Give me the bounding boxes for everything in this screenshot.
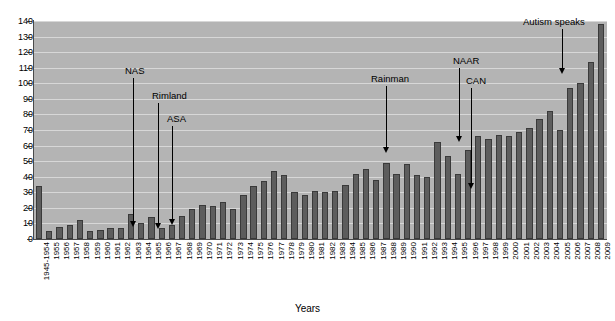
y-axis-tick-label: 100 xyxy=(7,79,33,88)
bar xyxy=(373,180,379,239)
x-axis-tick-label: 1970 xyxy=(206,242,214,260)
bar xyxy=(445,156,451,239)
x-axis-tick-label: 1958 xyxy=(83,242,91,260)
x-axis-tick-label: 1982 xyxy=(329,242,337,260)
bar xyxy=(199,205,205,239)
annotation-arrow-head xyxy=(468,183,474,189)
x-axis-tick-label: 1977 xyxy=(278,242,286,260)
annotation-label: ASA xyxy=(167,114,186,124)
bar xyxy=(475,136,481,239)
x-axis-tick-label: 1993 xyxy=(441,242,449,260)
y-axis-tick-label: 10 xyxy=(7,219,33,228)
x-axis-tick-label: 1975 xyxy=(257,242,265,260)
bar xyxy=(455,174,461,239)
x-axis-tick-label: 1955 xyxy=(53,242,61,260)
bar xyxy=(189,209,195,239)
x-axis-tick-label: 1995 xyxy=(461,242,469,260)
x-axis-tick-label: 1962 xyxy=(124,242,132,260)
bar xyxy=(322,192,328,239)
y-axis-tick-label: 140 xyxy=(7,17,33,26)
bar xyxy=(577,83,583,239)
annotation-arrow-line xyxy=(386,86,387,148)
x-axis-tick-label: 1956 xyxy=(63,242,71,260)
annotation-arrow-line xyxy=(471,88,472,184)
annotation-arrow-head xyxy=(456,136,462,142)
x-axis-tick-label: 1964 xyxy=(145,242,153,260)
bar xyxy=(567,88,573,239)
bar xyxy=(148,217,154,239)
x-axis-tick-label: 1967 xyxy=(175,242,183,260)
x-axis-tick-label: 1963 xyxy=(135,242,143,260)
x-axis-tick-label: 2002 xyxy=(533,242,541,260)
x-axis-tick-label: 1980 xyxy=(308,242,316,260)
x-axis-tick-label: 1945-1954 xyxy=(43,242,51,280)
bar xyxy=(77,220,83,239)
bar xyxy=(536,119,542,239)
y-axis-tick-label: 80 xyxy=(7,110,33,119)
bar xyxy=(46,231,52,239)
x-axis-tick-label: 1986 xyxy=(369,242,377,260)
y-axis-tick-label: 130 xyxy=(7,33,33,42)
x-axis-tick-label: 2008 xyxy=(594,242,602,260)
y-axis-tick-label: 120 xyxy=(7,48,33,57)
bar xyxy=(159,228,165,239)
annotation-arrow-head xyxy=(383,147,389,153)
x-axis-tick-label: 1976 xyxy=(267,242,275,260)
x-axis-tick-label: 1983 xyxy=(339,242,347,260)
bar xyxy=(261,181,267,239)
annotation-label: NAAR xyxy=(453,56,479,66)
x-axis-tick-label: 2009 xyxy=(604,242,612,260)
bar xyxy=(302,195,308,239)
x-axis-tick-label: 1987 xyxy=(380,242,388,260)
bar xyxy=(118,228,124,239)
x-axis-title: Years xyxy=(0,303,615,314)
x-axis-tick-label: 1978 xyxy=(288,242,296,260)
y-axis-tick-label: 0 xyxy=(7,235,33,244)
x-axis-tick-label: 1972 xyxy=(226,242,234,260)
bar-series xyxy=(34,21,606,239)
bar xyxy=(138,223,144,239)
x-axis-tick-label: 1957 xyxy=(73,242,81,260)
x-axis-tick-label: 2001 xyxy=(523,242,531,260)
bar xyxy=(363,169,369,239)
annotation-arrow-line xyxy=(133,78,134,222)
x-axis-tick-label: 1961 xyxy=(114,242,122,260)
bar xyxy=(516,132,522,239)
annotation-label: NAS xyxy=(125,66,145,76)
bar xyxy=(393,174,399,239)
bar xyxy=(87,231,93,239)
bar xyxy=(434,142,440,239)
bar xyxy=(291,192,297,239)
bar xyxy=(404,164,410,239)
bar xyxy=(240,195,246,239)
x-axis-tick-label: 1991 xyxy=(421,242,429,260)
bar xyxy=(526,128,532,239)
bar xyxy=(342,185,348,240)
y-axis-tick-label: 60 xyxy=(7,142,33,151)
y-axis: 0102030405060708090100110120130140 xyxy=(0,0,33,321)
bar xyxy=(496,135,502,239)
x-axis-tick-label: 1960 xyxy=(104,242,112,260)
x-axis-tick-label: 2006 xyxy=(574,242,582,260)
x-axis-tick-label: 1965 xyxy=(155,242,163,260)
bar xyxy=(220,202,226,239)
bar xyxy=(107,228,113,239)
x-axis-tick-label: 2004 xyxy=(553,242,561,260)
annotation-arrow-head xyxy=(155,223,161,229)
annotation-label: Rimland xyxy=(152,91,187,101)
bar xyxy=(36,186,42,239)
y-axis-tick-label: 20 xyxy=(7,204,33,213)
bar xyxy=(250,186,256,239)
annotation-label: CAN xyxy=(466,76,486,86)
bar xyxy=(56,227,62,239)
x-axis-tick-label: 2005 xyxy=(564,242,572,260)
bar xyxy=(230,209,236,239)
x-axis-tick-label: 1974 xyxy=(247,242,255,260)
x-axis-tick-label: 1989 xyxy=(400,242,408,260)
x-axis-tick-label: 1973 xyxy=(237,242,245,260)
x-axis-tick-labels: 1945-19541955195619571958195919601961196… xyxy=(34,242,606,302)
x-axis-tick-label: 1979 xyxy=(298,242,306,260)
x-axis-tick-label: 1992 xyxy=(431,242,439,260)
annotation-arrow-head xyxy=(559,68,565,74)
bar xyxy=(485,139,491,239)
